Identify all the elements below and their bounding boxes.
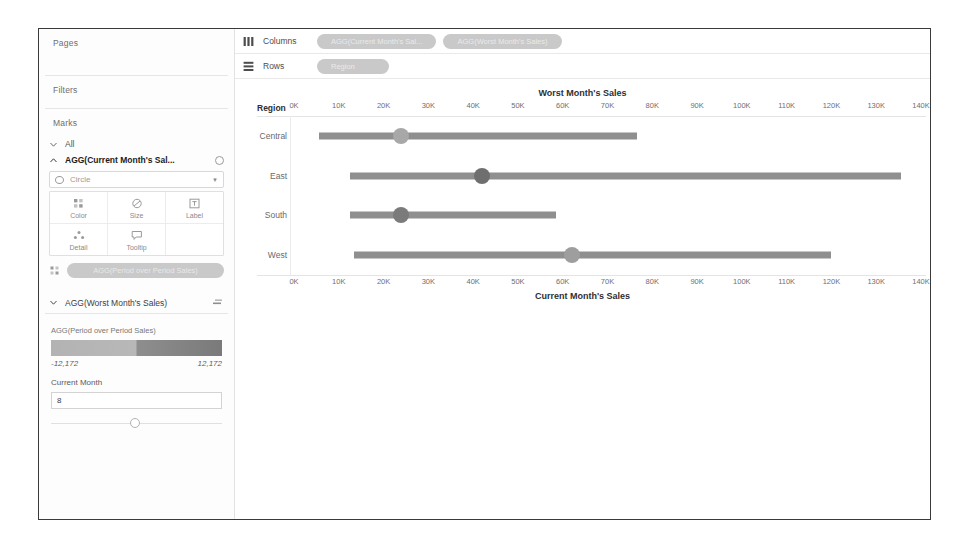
legend-gradient-bar[interactable] (51, 340, 222, 356)
legend-max: 12,172 (198, 359, 222, 368)
parameter-label: Current Month (51, 378, 222, 387)
axis-tick-label: 80K (646, 101, 659, 110)
range-bar[interactable] (350, 212, 556, 219)
tableau-worksheet-window: Pages Filters Marks All AGG(Current Mont… (38, 28, 931, 520)
marks-card-current-month[interactable]: AGG(Current Month's Sal... (39, 152, 234, 168)
worst-card-title: AGG(Worst Month's Sales) (65, 298, 167, 308)
empty-cell (166, 224, 223, 255)
color-button-label: Color (50, 212, 107, 219)
axis-tick-label: 0K (289, 101, 298, 110)
axis-tick-label: 10K (332, 277, 345, 286)
tooltip-icon (108, 229, 165, 242)
parameter-value: 8 (57, 396, 61, 405)
columns-icon (242, 36, 255, 47)
tooltip-button-label: Tooltip (108, 244, 165, 251)
marks-card-worst-month[interactable]: AGG(Worst Month's Sales) (39, 292, 234, 313)
marks-all-label: All (65, 139, 74, 149)
circle-mark[interactable] (474, 168, 490, 184)
axis-tick-label: 100K (733, 277, 751, 286)
rows-label: Rows (263, 61, 309, 71)
marks-card-title: AGG(Current Month's Sal... (65, 155, 175, 165)
label-button-label: Label (166, 212, 223, 219)
range-bar[interactable] (319, 132, 637, 139)
bar-mark-icon (212, 296, 224, 309)
row-label: South (235, 210, 287, 220)
color-legend: AGG(Period over Period Sales) -12,172 12… (39, 318, 234, 368)
columns-pills: AGG(Current Month's Sal... AGG(Worst Mon… (317, 34, 562, 49)
legend-values: -12,172 12,172 (51, 359, 222, 368)
color-pill[interactable]: AGG(Period over Period Sales) (67, 263, 224, 278)
size-button-label: Size (108, 212, 165, 219)
filters-label: Filters (39, 76, 234, 103)
label-button[interactable]: Label (166, 192, 223, 223)
bottom-axis-title: Current Month's Sales (235, 291, 930, 301)
axis-tick-label: 40K (466, 101, 479, 110)
filters-shelf[interactable]: Filters (39, 76, 234, 108)
axis-tick-label: 140K (912, 101, 930, 110)
rows-pill-region[interactable]: Region (317, 59, 389, 74)
circle-mark[interactable] (393, 207, 409, 223)
color-encoding-row: AGG(Period over Period Sales) (49, 263, 224, 278)
axis-tick-label: 60K (556, 101, 569, 110)
marks-card: Marks All AGG(Current Month's Sal... Cir… (39, 109, 234, 318)
legend-title: AGG(Period over Period Sales) (51, 326, 222, 335)
range-bar[interactable] (350, 172, 901, 179)
axis-tick-label: 50K (511, 277, 524, 286)
rows-icon (242, 61, 255, 72)
slider-knob[interactable] (130, 418, 140, 428)
divider (45, 313, 228, 314)
axis-tick-label: 0K (289, 277, 298, 286)
axis-tick-label: 90K (690, 101, 703, 110)
mark-type-value: Circle (70, 175, 90, 184)
marks-buttons-row: Detail Tooltip (50, 224, 223, 255)
axis-tick-label: 130K (867, 101, 885, 110)
tooltip-button[interactable]: Tooltip (108, 224, 166, 255)
rows-shelf[interactable]: Rows Region (235, 54, 930, 79)
row-label: Central (235, 131, 287, 141)
chevron-down-icon (49, 140, 58, 149)
axis-tick-label: 80K (646, 277, 659, 286)
axis-tick-label: 110K (778, 101, 795, 110)
parameter-control: Current Month 8 (39, 368, 234, 430)
top-axis: 0K10K20K30K40K50K60K70K80K90K100K110K120… (235, 101, 930, 113)
marks-buttons-row: Color Size (50, 192, 223, 224)
columns-shelf[interactable]: Columns AGG(Current Month's Sal... AGG(W… (235, 29, 930, 54)
plot-top-border (257, 116, 926, 117)
left-sidebar: Pages Filters Marks All AGG(Current Mont… (39, 29, 235, 519)
marks-buttons-grid: Color Size (49, 191, 224, 256)
parameter-slider[interactable] (51, 418, 222, 430)
axis-tick-label: 20K (377, 277, 390, 286)
chevron-down-icon (49, 298, 58, 307)
axis-tick-label: 90K (690, 277, 703, 286)
size-button[interactable]: Size (108, 192, 166, 223)
color-icon (49, 266, 60, 276)
pages-label: Pages (39, 29, 234, 56)
mark-type-dropdown[interactable]: Circle ▼ (49, 171, 224, 188)
axis-tick-label: 10K (332, 101, 345, 110)
color-button[interactable]: Color (50, 192, 108, 223)
parameter-input[interactable]: 8 (51, 392, 222, 409)
bottom-axis: 0K10K20K30K40K50K60K70K80K90K100K110K120… (235, 277, 930, 289)
size-icon (108, 197, 165, 210)
axis-tick-label: 140K (912, 277, 930, 286)
columns-pill-current-month[interactable]: AGG(Current Month's Sal... (317, 34, 436, 49)
detail-icon (50, 229, 107, 242)
axis-tick-label: 60K (556, 277, 569, 286)
circle-mark-icon (215, 156, 224, 165)
legend-min: -12,172 (51, 359, 78, 368)
columns-pill-worst-month[interactable]: AGG(Worst Month's Sales) (443, 34, 561, 49)
marks-card-all[interactable]: All (39, 136, 234, 152)
circle-mark[interactable] (393, 128, 409, 144)
circle-icon (55, 176, 64, 184)
pages-shelf[interactable]: Pages (39, 29, 234, 75)
chevron-up-icon (49, 156, 58, 165)
top-axis-title: Worst Month's Sales (235, 88, 930, 98)
detail-button[interactable]: Detail (50, 224, 108, 255)
circle-mark[interactable] (564, 247, 580, 263)
row-header-divider (290, 116, 291, 275)
axis-tick-label: 40K (466, 277, 479, 286)
range-bar[interactable] (354, 252, 831, 259)
axis-tick-label: 110K (778, 277, 795, 286)
axis-tick-label: 120K (823, 101, 841, 110)
axis-tick-label: 20K (377, 101, 390, 110)
